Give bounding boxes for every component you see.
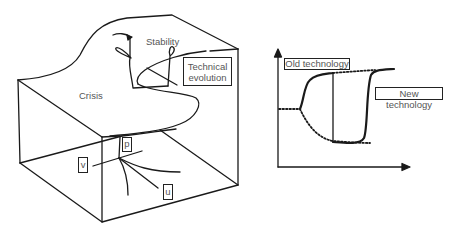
u-axis-label: u	[163, 184, 173, 200]
diagram-lines	[0, 0, 459, 236]
diagram-canvas: Crisis Stability Technical evolution p v…	[0, 0, 459, 236]
v-axis-label: v	[78, 157, 88, 173]
technical-evolution-box: Technical evolution	[183, 57, 232, 86]
x-axis-arrow	[402, 164, 410, 171]
technical-evolution-line2: evolution	[184, 72, 231, 83]
old-technology-label: Old technology	[284, 58, 350, 70]
stability-label: Stability	[146, 36, 179, 47]
crisis-label: Crisis	[79, 90, 103, 101]
y-axis-arrow	[275, 49, 282, 57]
technical-evolution-line1: Technical	[184, 61, 231, 72]
new-technology-label: New technology	[375, 87, 443, 100]
p-axis-label: p	[122, 137, 132, 152]
hysteresis-curves	[279, 69, 394, 143]
